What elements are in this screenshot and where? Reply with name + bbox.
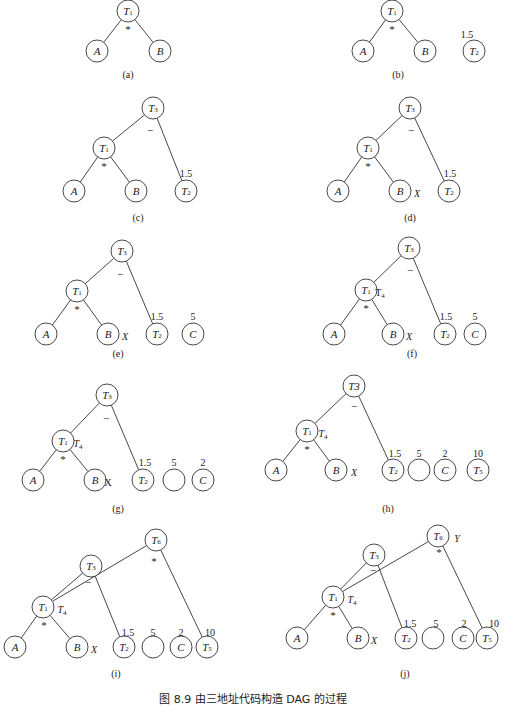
node-annotation: Y (454, 533, 461, 544)
panel-caption: (j) (400, 668, 409, 680)
node-t3: T3 (399, 97, 421, 119)
node-annotation: 2 (179, 627, 184, 638)
node-t1: T1 (357, 137, 379, 159)
operator-label: * (74, 303, 80, 315)
edge-t1-b (83, 300, 101, 325)
panel-caption: (f) (407, 348, 417, 360)
panel-a: T1AB*(a) (86, 0, 171, 81)
node-label: B (333, 464, 340, 476)
edge-t3-t1 (113, 115, 145, 141)
node-label: A (93, 45, 101, 57)
node-annotation: 5 (151, 627, 156, 638)
node-label: C (177, 641, 185, 653)
node-label: A (334, 185, 342, 197)
operator-label: * (436, 546, 442, 558)
node-subscript: 2 (187, 189, 191, 197)
node-t2: T2 (175, 180, 197, 202)
node-a: A (35, 323, 57, 345)
node-label: T3 (348, 380, 360, 392)
node-b: B (149, 40, 171, 62)
panel-i: T6T3T1ABT2CT5*−*T4X1.55210(i) (4, 529, 218, 680)
edge-t3-t2 (415, 118, 445, 181)
operator-label: − (407, 264, 413, 276)
edge-t6-t5 (161, 550, 203, 637)
panel-h: T3T1ABT2CT5−*T4X1.55210(h) (265, 375, 489, 515)
node-t2: T2 (113, 636, 135, 658)
panel-g: T3T1ABT2C−*T4X1.552(g) (22, 384, 214, 515)
node-t2: T2 (463, 40, 485, 62)
node-t5: T5 (467, 459, 489, 481)
node-t3: T3 (343, 375, 365, 397)
edge-t1-a (104, 20, 122, 43)
edge-t3-t2 (157, 118, 182, 181)
node-annotation: 1.5 (122, 627, 135, 638)
node-annotation: X (350, 467, 358, 478)
node-b: B (389, 180, 411, 202)
panel-b: T1ABT2*1.5(b) (352, 0, 485, 81)
node-subscript: 1 (44, 605, 48, 613)
node-b: B (414, 40, 436, 62)
node-subscript: 1 (308, 429, 312, 437)
edge-t1-a (344, 157, 361, 182)
node-annotation: T4 (318, 428, 328, 441)
node-label: A (70, 185, 78, 197)
edge-t1-b (50, 615, 70, 638)
operator-label: * (125, 23, 131, 35)
node-subscript: 1 (367, 288, 371, 296)
node-c: C (170, 636, 192, 658)
panel-caption: (c) (132, 212, 143, 224)
edge-t1-b (372, 299, 387, 324)
operator-label: * (151, 555, 157, 567)
node-b: B (347, 627, 369, 649)
operator-label: * (330, 609, 336, 621)
node-a: A (265, 459, 287, 481)
panel-caption: (a) (122, 69, 133, 81)
node-b: B (84, 469, 106, 491)
node-t1: T1 (93, 137, 115, 159)
node-t2: T2 (146, 323, 168, 345)
node-label: A (272, 464, 280, 476)
node-subscript: 5 (208, 645, 212, 653)
edge-t1-b (111, 157, 130, 182)
edge-t3-t2 (359, 396, 389, 460)
node-annotation: 1.5 (139, 457, 152, 468)
node-annotation: 5 (172, 457, 177, 468)
edge-t1-a (340, 299, 359, 325)
node-e (408, 459, 430, 481)
node-subscript: 1 (369, 146, 373, 154)
operator-label: * (363, 302, 369, 314)
node-subscript: 2 (158, 332, 162, 340)
edge-t1-a (80, 157, 97, 182)
node-annotation: 1.5 (389, 448, 402, 459)
node-annotation: T4 (347, 594, 357, 607)
operator-label: − (117, 268, 123, 280)
node-label: B (105, 328, 112, 340)
node-subscript: 6 (157, 538, 161, 546)
node-annotation: X (104, 477, 112, 488)
node-label: C (189, 328, 197, 340)
node-a: A (86, 40, 108, 62)
node-label: C (459, 632, 467, 644)
node-subscript: 5 (479, 468, 483, 476)
node-annotation: 1.5 (444, 168, 457, 179)
node-circle (422, 627, 444, 649)
node-subscript: 1 (129, 9, 133, 17)
node-c: C (182, 323, 204, 345)
node-label: A (29, 474, 37, 486)
node-b: B (66, 636, 88, 658)
node-a: A (4, 636, 26, 658)
panel-caption: (b) (392, 69, 404, 81)
node-annotation: 5 (417, 448, 422, 459)
operator-label: − (351, 400, 357, 412)
node-label: B (390, 328, 397, 340)
edge-t1-b (314, 440, 330, 461)
operator-label: − (370, 564, 376, 576)
edge-t3-t2 (95, 576, 120, 637)
operator-label: * (304, 443, 310, 455)
edge-t1-a (369, 20, 385, 42)
edge-t6-t5 (443, 546, 482, 628)
node-t1: T1 (322, 586, 344, 608)
edge-t1-a (52, 300, 70, 325)
node-c: C (464, 323, 486, 345)
node-e (422, 627, 444, 649)
